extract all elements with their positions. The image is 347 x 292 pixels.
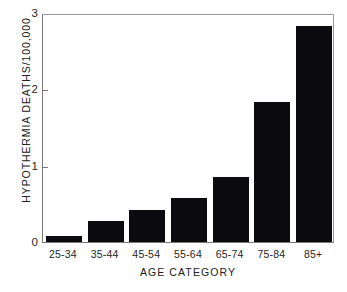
bar — [171, 198, 207, 242]
bar-series — [43, 15, 333, 242]
bar — [129, 210, 165, 242]
bar — [88, 221, 124, 242]
y-axis-tick — [42, 90, 48, 91]
y-axis-tick-label: 0 — [14, 236, 38, 248]
bar — [213, 177, 249, 242]
bar — [46, 236, 82, 242]
bar — [296, 26, 332, 242]
y-axis-title: HYPOTHERMIA DEATHS/100,000 — [20, 0, 32, 220]
x-axis-title: AGE CATEGORY — [42, 266, 334, 278]
bar — [254, 102, 290, 242]
plot-area — [42, 14, 334, 243]
x-axis-tick-label: 85+ — [283, 248, 343, 260]
y-axis-tick — [42, 167, 48, 168]
hypothermia-deaths-bar-chart: 0123 HYPOTHERMIA DEATHS/100,000 25-3435-… — [0, 0, 347, 292]
